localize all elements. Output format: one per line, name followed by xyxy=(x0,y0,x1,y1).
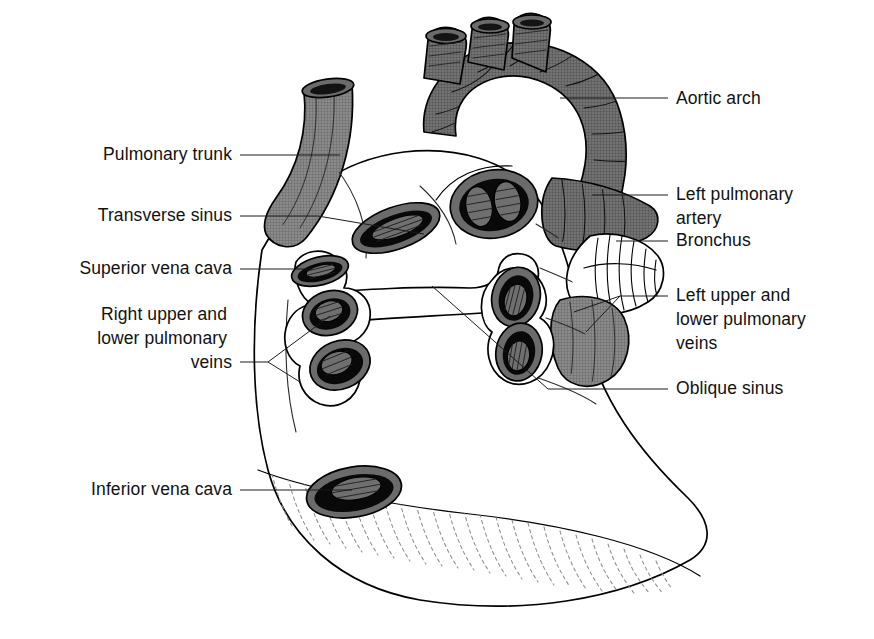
left-pulmonary-vein-mass xyxy=(551,297,629,387)
label-superior-vena-cava: Superior vena cava xyxy=(79,258,232,278)
label-oblique-sinus: Oblique sinus xyxy=(676,378,783,398)
brachiocephalic-trunk-stump xyxy=(424,28,466,85)
label-pulmonary-trunk: Pulmonary trunk xyxy=(103,144,232,164)
label-aortic-arch: Aortic arch xyxy=(676,88,761,108)
label-inferior-vena-cava: Inferior vena cava xyxy=(91,479,232,499)
left-common-carotid-stump xyxy=(468,18,509,71)
label-bronchus: Bronchus xyxy=(676,230,751,250)
heart-anatomy-figure: Pulmonary trunk Transverse sinus Superio… xyxy=(0,0,874,639)
label-transverse-sinus: Transverse sinus xyxy=(98,205,232,225)
